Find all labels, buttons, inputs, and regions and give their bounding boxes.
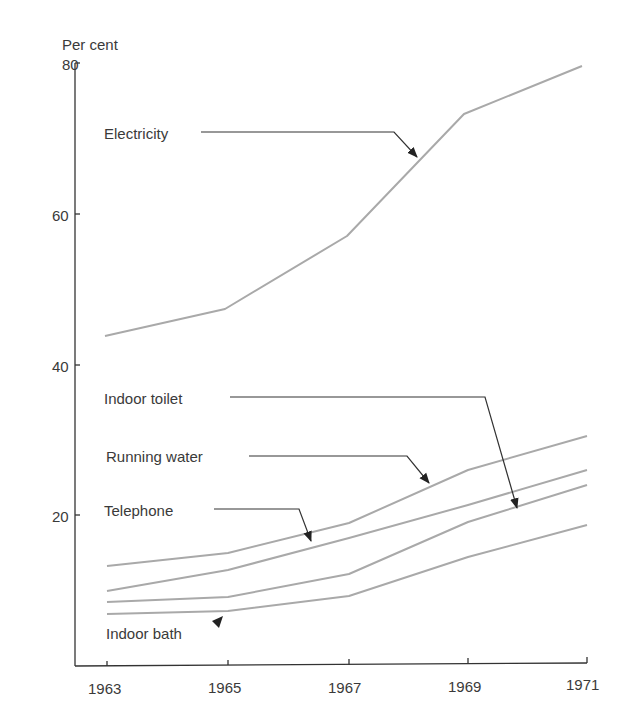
line-chart: Per cent 80 60 40 20 1963 1965 1967 1969… (0, 0, 633, 721)
label-running-water: Running water (106, 448, 203, 465)
series-line-electricity (105, 66, 582, 336)
x-tick-label: 1971 (566, 676, 599, 693)
y-tick-label: 20 (52, 508, 69, 525)
y-axis-title: Per cent (62, 36, 119, 53)
x-tick-label: 1963 (88, 680, 121, 697)
y-axis (75, 63, 80, 666)
x-axis (75, 657, 587, 666)
x-tick-label: 1967 (328, 679, 361, 696)
electricity-leader-arrow (201, 132, 417, 157)
x-tick-label: 1965 (208, 679, 241, 696)
running-water-leader-arrow (249, 456, 429, 483)
label-indoor-toilet: Indoor toilet (104, 390, 183, 407)
indoor-bath-arrow-icon (212, 616, 223, 628)
y-tick-label: 80 (62, 56, 79, 73)
y-tick-label: 40 (52, 358, 69, 375)
series-line-telephone (107, 470, 587, 591)
label-indoor-bath: Indoor bath (106, 625, 182, 642)
indoor-toilet-leader-arrow (230, 397, 517, 508)
x-tick-label: 1969 (448, 678, 481, 695)
label-electricity: Electricity (104, 125, 169, 142)
label-telephone: Telephone (104, 502, 173, 519)
y-tick-label: 60 (52, 207, 69, 224)
